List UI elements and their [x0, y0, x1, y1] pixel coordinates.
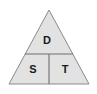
triangle-diagram-canvas: D S T — [0, 0, 97, 94]
region-label-bottom-left: S — [29, 63, 36, 75]
region-label-top: D — [43, 34, 51, 46]
region-label-bottom-right: T — [62, 63, 69, 75]
triangle-diagram: D S T — [0, 0, 97, 94]
